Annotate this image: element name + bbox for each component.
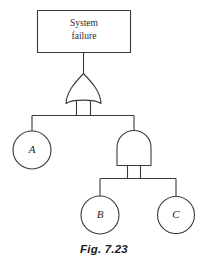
or-gate-symbol: [66, 74, 101, 104]
fault-tree-figure: System failure A B C: [0, 0, 208, 264]
figure-caption: Fig. 7.23: [80, 243, 128, 255]
top-event-label-line1: System: [70, 18, 99, 28]
top-event-label-line2: failure: [72, 31, 97, 41]
event-c-label: C: [172, 208, 180, 220]
event-b-label: B: [97, 208, 104, 220]
fault-tree-canvas: System failure A B C: [0, 0, 208, 264]
and-gate-symbol: [117, 131, 151, 166]
event-a-label: A: [28, 143, 36, 155]
